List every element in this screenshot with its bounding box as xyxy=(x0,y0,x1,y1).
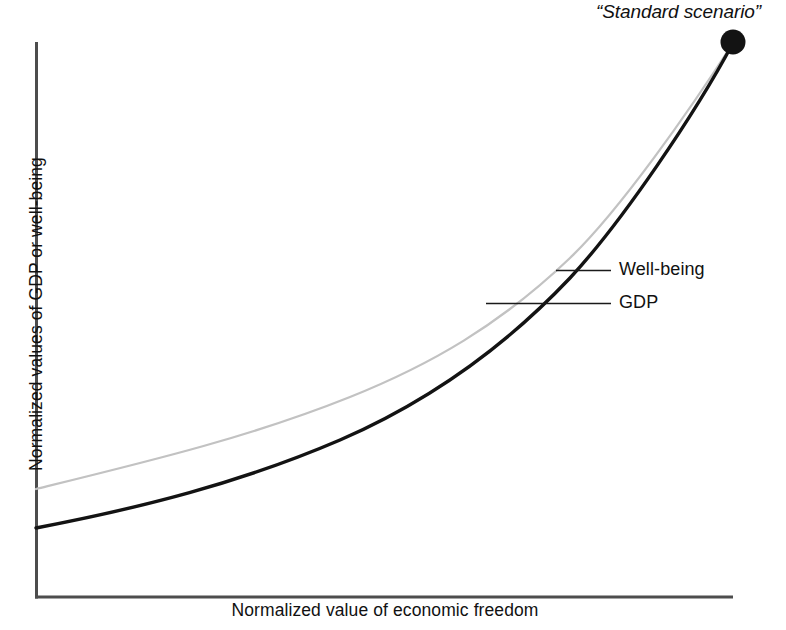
chart-plot-area xyxy=(0,0,786,630)
standard-scenario-endpoint-marker xyxy=(721,30,746,55)
wellbeing-series-label: Well-being xyxy=(619,259,705,280)
x-axis-title: Normalized value of economic freedom xyxy=(36,600,734,621)
gdp-curve xyxy=(36,43,733,528)
y-axis-title-container: Normalized values of GDP or well-being xyxy=(24,14,48,614)
gdp-series-label: GDP xyxy=(619,292,658,313)
y-axis-title: Normalized values of GDP or well-being xyxy=(24,14,48,614)
standard-scenario-annotation: “Standard scenario” xyxy=(596,1,761,23)
chart-figure: “Standard scenario” Well-being GDP Norma… xyxy=(0,0,786,630)
